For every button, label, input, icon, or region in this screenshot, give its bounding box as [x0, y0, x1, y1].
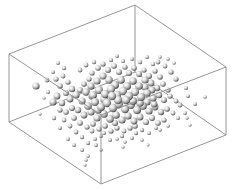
data-point-sphere — [32, 82, 39, 89]
data-point-sphere — [108, 128, 113, 133]
data-point-sphere — [164, 106, 170, 112]
data-point-sphere — [203, 95, 207, 99]
data-point-sphere — [92, 60, 96, 64]
data-point-sphere — [137, 114, 144, 121]
data-point-sphere — [109, 58, 113, 62]
data-point-sphere — [86, 141, 90, 145]
data-point-sphere — [156, 60, 161, 65]
data-point-sphere — [80, 148, 84, 152]
data-point-sphere — [66, 137, 70, 141]
data-point-sphere — [80, 135, 84, 139]
data-point-sphere — [63, 109, 69, 115]
data-point-sphere — [148, 80, 155, 87]
data-point-sphere — [143, 119, 149, 125]
scatter-points — [32, 54, 206, 167]
data-point-sphere — [65, 79, 70, 84]
data-point-sphere — [122, 129, 127, 134]
data-point-sphere — [93, 77, 100, 84]
data-point-sphere — [126, 70, 132, 76]
data-point-sphere — [74, 130, 79, 135]
data-point-sphere — [69, 86, 75, 92]
data-point-sphere — [160, 81, 166, 87]
data-point-sphere — [133, 106, 141, 114]
data-point-sphere — [117, 76, 125, 84]
data-point-sphere — [115, 54, 119, 58]
box-edge — [9, 122, 101, 184]
data-point-sphere — [100, 61, 105, 66]
data-point-sphere — [134, 131, 138, 135]
data-point-sphere — [93, 137, 97, 141]
data-point-sphere — [71, 115, 77, 121]
data-point-sphere — [166, 124, 170, 128]
data-point-sphere — [183, 111, 187, 115]
data-point-sphere — [46, 90, 50, 94]
data-point-sphere — [77, 120, 83, 126]
data-point-sphere — [75, 107, 81, 113]
data-point-sphere — [161, 97, 167, 103]
data-point-sphere — [174, 99, 179, 104]
data-point-sphere — [176, 116, 180, 120]
data-point-sphere — [86, 76, 91, 81]
data-point-sphere — [114, 125, 119, 130]
data-point-sphere — [122, 64, 127, 69]
data-point-sphere — [168, 69, 173, 74]
data-point-sphere — [105, 67, 111, 73]
data-point-sphere — [108, 138, 112, 142]
data-point-sphere — [131, 65, 137, 71]
data-point-sphere — [94, 143, 98, 147]
data-point-sphere — [123, 140, 127, 144]
data-point-sphere — [111, 63, 117, 69]
data-point-sphere — [42, 96, 45, 99]
data-point-sphere — [62, 118, 67, 123]
data-point-sphere — [131, 118, 138, 125]
data-point-sphere — [151, 101, 158, 108]
data-point-sphere — [193, 102, 197, 106]
data-point-sphere — [69, 105, 75, 111]
data-point-sphere — [62, 66, 66, 70]
data-point-sphere — [178, 103, 183, 108]
data-point-sphere — [84, 124, 89, 129]
data-point-sphere — [130, 57, 134, 61]
data-point-sphere — [90, 121, 96, 127]
data-point-sphere — [93, 114, 100, 121]
data-point-sphere — [57, 107, 62, 112]
data-point-sphere — [141, 76, 148, 83]
box-edge — [9, 5, 135, 54]
data-point-sphere — [122, 96, 130, 104]
data-point-sphere — [84, 63, 89, 68]
data-point-sphere — [89, 70, 94, 75]
data-point-sphere — [172, 61, 176, 65]
data-point-sphere — [149, 115, 155, 121]
data-point-sphere — [157, 74, 163, 80]
data-point-sphere — [167, 93, 172, 98]
data-point-sphere — [54, 93, 61, 100]
data-point-sphere — [120, 134, 124, 138]
data-point-sphere — [147, 131, 151, 135]
data-point-sphere — [155, 120, 161, 126]
data-point-sphere — [61, 74, 66, 79]
data-point-sphere — [67, 96, 74, 103]
data-point-sphere — [121, 59, 125, 63]
data-point-sphere — [158, 109, 164, 115]
data-point-sphere — [51, 70, 55, 74]
data-point-sphere — [154, 126, 158, 130]
data-point-sphere — [115, 137, 119, 141]
data-point-sphere — [58, 126, 62, 130]
data-point-sphere — [87, 82, 94, 89]
data-point-sphere — [72, 143, 76, 147]
data-point-sphere — [185, 116, 189, 120]
data-point-sphere — [166, 57, 170, 61]
data-point-sphere — [141, 67, 146, 72]
data-point-sphere — [49, 98, 56, 105]
data-point-sphere — [145, 107, 152, 114]
data-point-sphere — [163, 64, 168, 69]
data-point-sphere — [81, 81, 87, 87]
data-point-sphere — [95, 65, 101, 71]
data-point-sphere — [186, 94, 190, 98]
data-point-sphere — [68, 124, 73, 129]
data-point-sphere — [83, 163, 86, 166]
data-point-sphere — [130, 136, 134, 140]
data-point-sphere — [129, 77, 137, 85]
data-point-sphere — [121, 145, 124, 148]
data-point-sphere — [105, 76, 113, 84]
